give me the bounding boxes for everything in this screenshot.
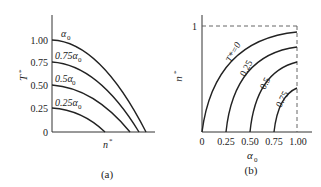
label-a-alpha0: α 0 xyxy=(61,28,71,42)
ytick-a-0.75: 0.75 xyxy=(31,57,49,68)
svg-text:0.75α: 0.75α xyxy=(55,50,79,61)
ytick-b-1: 1 xyxy=(192,21,197,32)
svg-text:0: 0 xyxy=(78,56,82,64)
svg-text:0: 0 xyxy=(254,156,258,164)
svg-text:0: 0 xyxy=(78,103,82,111)
ylabel-a: T * xyxy=(17,69,29,81)
ytick-a-0.25: 0.25 xyxy=(31,103,49,114)
figure: 1.00 0.75 0.50 0.25 0 T * α 0 0.75α 0 0.… xyxy=(0,0,321,187)
svg-text:n: n xyxy=(172,76,184,82)
curve-a-0.25alpha0 xyxy=(52,108,105,132)
svg-text:*: * xyxy=(17,69,25,73)
ytick-a-0: 0 xyxy=(43,127,48,138)
xtick-b-1.00: 1.00 xyxy=(289,136,307,147)
label-a-0.5alpha0: 0.5α 0 xyxy=(55,73,76,87)
svg-text:T: T xyxy=(17,74,29,81)
svg-text:*: * xyxy=(172,70,180,74)
svg-text:0: 0 xyxy=(67,34,71,42)
svg-text:*: * xyxy=(109,137,113,145)
xtick-b-0.50: 0.50 xyxy=(241,136,259,147)
label-a-0.75alpha0: 0.75α 0 xyxy=(55,50,82,64)
ylabel-b: n * xyxy=(172,70,184,82)
svg-text:0: 0 xyxy=(72,79,76,87)
curve-b-T0.5 xyxy=(250,62,297,132)
svg-text:0.5α: 0.5α xyxy=(55,73,74,84)
xtick-b-0.25: 0.25 xyxy=(217,136,235,147)
ytick-a-1.00: 1.00 xyxy=(31,35,49,46)
label-b-T0: T*=0 xyxy=(224,40,243,64)
xlabel-b: α 0 xyxy=(247,149,258,164)
panel-b: 1 n * T*=0 0.25 0.5 0.75 0 0.25 0.50 0.7… xyxy=(172,15,312,177)
label-b-0.75: 0.75 xyxy=(274,89,291,109)
panel-a: 1.00 0.75 0.50 0.25 0 T * α 0 0.75α 0 0.… xyxy=(17,15,155,181)
svg-text:n: n xyxy=(103,139,108,150)
xlabel-a: n * xyxy=(103,137,113,150)
svg-text:α: α xyxy=(247,149,253,161)
curve-b-T0 xyxy=(202,32,297,132)
ytick-a-0.50: 0.50 xyxy=(31,80,49,91)
caption-a: (a) xyxy=(101,168,114,181)
xtick-b-0: 0 xyxy=(200,136,205,147)
svg-text:0.25α: 0.25α xyxy=(55,97,79,108)
caption-b: (b) xyxy=(245,164,258,177)
curve-a-0.5alpha0 xyxy=(52,85,130,132)
xtick-b-0.75: 0.75 xyxy=(265,136,283,147)
